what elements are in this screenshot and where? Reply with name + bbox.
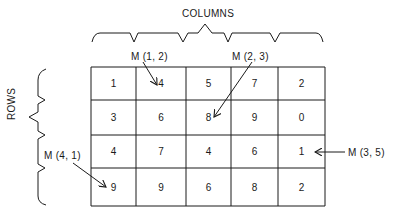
matrix-cell-r3-c1: 4 <box>91 135 136 168</box>
matrix-cell-r1-c3: 5 <box>186 67 231 100</box>
rows-brace <box>29 69 46 205</box>
annotation-m-2-3: M (2, 3) <box>232 51 269 62</box>
matrix-cell-r4-c4: 8 <box>231 168 278 206</box>
matrix-cell-r2-c5: 0 <box>278 100 325 135</box>
matrix-cell-r3-c5: 1 <box>278 135 325 168</box>
annotation-m-3-5: M (3, 5) <box>348 147 385 158</box>
matrix-cell-r3-c2: 7 <box>136 135 186 168</box>
matrix-cell-r3-c4: 6 <box>231 135 278 168</box>
matrix-cell-r1-c4: 7 <box>231 67 278 100</box>
matrix-cell-r1-c5: 2 <box>278 67 325 100</box>
matrix-cell-r2-c3: 8 <box>186 100 231 135</box>
matrix-cell-r4-c5: 2 <box>278 168 325 206</box>
columns-title: COLUMNS <box>182 8 234 19</box>
rows-title: ROWS <box>6 88 17 120</box>
matrix-cell-r4-c1: 9 <box>91 168 136 206</box>
annotation-m-1-2: M (1, 2) <box>131 51 168 62</box>
matrix-cell-r1-c1: 1 <box>91 67 136 100</box>
matrix-cell-r1-c2: 4 <box>136 67 186 100</box>
matrix-cell-r4-c3: 6 <box>186 168 231 206</box>
matrix-cell-r2-c1: 3 <box>91 100 136 135</box>
matrix-cell-r2-c4: 9 <box>231 100 278 135</box>
matrix-cell-r4-c2: 9 <box>136 168 186 206</box>
matrix-cell-r3-c3: 4 <box>186 135 231 168</box>
columns-brace <box>92 24 323 42</box>
matrix-cell-r2-c2: 6 <box>136 100 186 135</box>
annotation-m-4-1: M (4, 1) <box>44 150 81 161</box>
